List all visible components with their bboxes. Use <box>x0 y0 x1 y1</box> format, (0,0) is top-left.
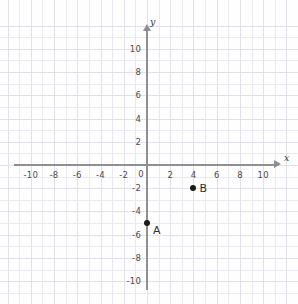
axes-layer <box>0 0 298 304</box>
y-tick-6: 6 <box>125 90 141 100</box>
y-tick--4: -4 <box>125 206 141 216</box>
y-tick-4: 4 <box>125 114 141 124</box>
point-label-A: A <box>153 224 161 237</box>
x-tick--8: -8 <box>50 170 59 180</box>
x-tick--6: -6 <box>73 170 82 180</box>
x-axis-label: x <box>284 152 289 163</box>
point-dot-A[interactable] <box>144 220 150 226</box>
x-tick--2: -2 <box>119 170 128 180</box>
point-dot-B[interactable] <box>190 185 196 191</box>
y-tick-2: 2 <box>125 137 141 147</box>
x-tick-10: 10 <box>258 170 269 180</box>
y-axis-line <box>146 27 148 290</box>
coordinate-plane: x y -10-8-6-4-20246810 108642-2-4-6-8-10… <box>0 0 298 304</box>
y-tick--2: -2 <box>125 183 141 193</box>
x-tick-2: 2 <box>167 170 173 180</box>
x-tick--10: -10 <box>24 170 38 180</box>
y-tick--6: -6 <box>125 230 141 240</box>
y-tick--10: -10 <box>125 276 141 286</box>
origin-label: 0 <box>138 169 144 179</box>
x-tick-8: 8 <box>237 170 243 180</box>
y-tick-10: 10 <box>125 44 141 54</box>
y-tick--8: -8 <box>125 253 141 263</box>
x-tick-6: 6 <box>214 170 220 180</box>
y-axis-label: y <box>150 16 155 27</box>
x-tick-4: 4 <box>191 170 197 180</box>
x-axis-arrowhead-icon <box>274 160 281 168</box>
y-tick-8: 8 <box>125 67 141 77</box>
x-tick--4: -4 <box>96 170 105 180</box>
point-label-B: B <box>199 182 207 195</box>
